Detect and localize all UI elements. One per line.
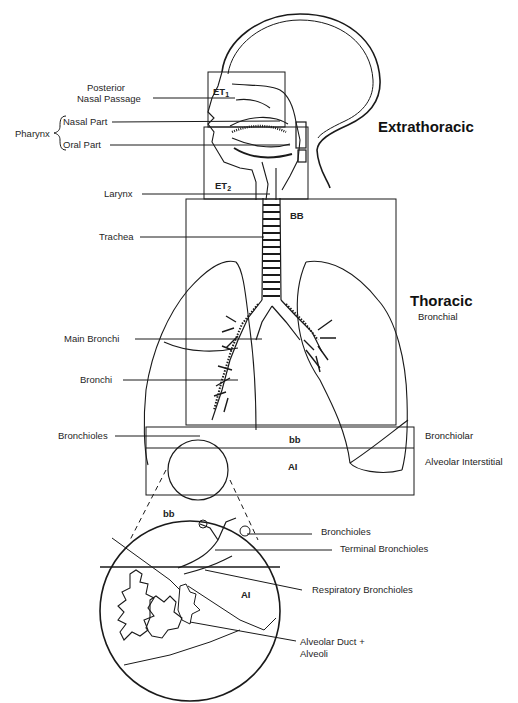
bb-box xyxy=(186,199,396,425)
region-bronchial: Bronchial xyxy=(418,311,458,322)
et2-subscript: 2 xyxy=(227,185,231,192)
bb-lower-label: bb xyxy=(289,434,301,445)
bb-upper-label: BB xyxy=(290,210,304,221)
label-pharynx: Pharynx xyxy=(15,128,50,139)
label-nasal-part: Nasal Part xyxy=(63,116,107,127)
bb-zoom-label: bb xyxy=(163,508,175,519)
respiratory-tract-drawing xyxy=(0,0,518,703)
zoom-circle xyxy=(100,521,280,701)
label-posterior: Posterior xyxy=(87,82,125,93)
zoom-circle-internal xyxy=(100,518,280,665)
trachea xyxy=(262,198,281,300)
label-terminal-bronchioles: Terminal Bronchioles xyxy=(340,543,428,554)
bb-ai-band xyxy=(146,427,414,495)
et1-subscript: 1 xyxy=(225,91,229,98)
label-trachea: Trachea xyxy=(99,231,134,242)
label-bronchi: Bronchi xyxy=(80,374,112,385)
region-alveolar-interstitial: Alveolar Interstitial xyxy=(425,456,503,467)
label-alveoli: Alveoli xyxy=(300,648,328,659)
region-thoracic: Thoracic xyxy=(410,292,473,309)
magnify-dashed-lines xyxy=(130,470,258,540)
ai-zoom-label: AI xyxy=(241,589,251,600)
magnify-source-circle xyxy=(168,440,228,500)
label-bronchioles: Bronchioles xyxy=(58,430,108,441)
label-respiratory-bronchioles: Respiratory Bronchioles xyxy=(312,584,413,595)
et1-label: ET1 xyxy=(213,86,229,98)
label-zoom-bronchioles: Bronchioles xyxy=(321,526,371,537)
region-bronchiolar: Bronchiolar xyxy=(425,430,473,441)
et1-text: ET xyxy=(213,86,225,97)
ai-label: AI xyxy=(288,461,298,472)
label-alveolar-duct: Alveolar Duct + xyxy=(300,636,365,647)
region-extrathoracic: Extrathoracic xyxy=(378,118,474,135)
et2-text: ET xyxy=(215,180,227,191)
label-larynx: Larynx xyxy=(104,188,133,199)
label-main-bronchi: Main Bronchi xyxy=(64,333,119,344)
label-nasal-passage: Nasal Passage xyxy=(77,93,141,104)
label-oral-part: Oral Part xyxy=(63,139,101,150)
et2-label: ET2 xyxy=(215,180,231,192)
bronchial-branches xyxy=(214,316,336,412)
lungs xyxy=(144,261,408,472)
